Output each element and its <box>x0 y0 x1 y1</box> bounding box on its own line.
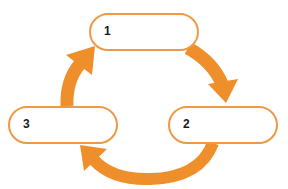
step-3-label: 3 <box>23 117 30 131</box>
arrow-2-to-3-icon <box>80 143 213 179</box>
cycle-step-3: 3 <box>8 106 118 144</box>
arrow-3-to-1-icon <box>66 46 95 106</box>
step-1-label: 1 <box>104 24 111 38</box>
cycle-step-2: 2 <box>168 106 278 144</box>
cycle-diagram: 1 2 3 <box>0 0 288 189</box>
step-2-label: 2 <box>183 117 190 131</box>
cycle-step-1: 1 <box>89 13 199 51</box>
arrow-1-to-2-icon <box>188 48 238 103</box>
